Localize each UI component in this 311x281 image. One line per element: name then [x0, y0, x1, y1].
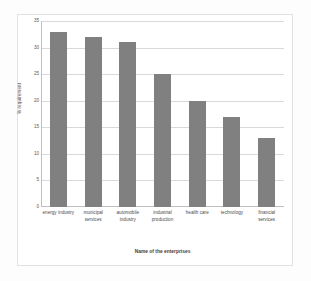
x-tick-slot: health care	[180, 210, 215, 223]
bar-slot	[215, 21, 250, 207]
x-tick-label: financial services	[250, 210, 283, 223]
x-tick-slot: industrial production	[145, 210, 180, 223]
y-tick-label: 20	[34, 98, 39, 103]
x-tick-slot: energy industry	[41, 210, 76, 223]
bar[interactable]	[119, 42, 136, 207]
x-tick-label: industrial production	[146, 210, 179, 223]
bar[interactable]	[223, 117, 240, 207]
x-tick-label: technology	[216, 210, 249, 217]
x-tick-label: energy industry	[42, 210, 75, 217]
bar-slot	[145, 21, 180, 207]
bar[interactable]	[258, 138, 275, 207]
x-tick-label: automobile industry	[111, 210, 144, 223]
y-axis-title: % requirement	[17, 64, 22, 134]
x-tick-label: municipal services	[77, 210, 110, 223]
y-tick-label: 5	[36, 178, 39, 183]
x-tick-label: health care	[181, 210, 214, 217]
x-axis-tick-labels: energy industrymunicipal servicesautomob…	[41, 210, 284, 223]
bar-slot	[110, 21, 145, 207]
bar[interactable]	[50, 32, 67, 207]
bar-slot	[249, 21, 284, 207]
bar[interactable]	[189, 101, 206, 207]
y-tick-label: 35	[34, 19, 39, 24]
x-tick-slot: financial services	[249, 210, 284, 223]
bar[interactable]	[85, 37, 102, 207]
y-tick-label: 15	[34, 125, 39, 130]
x-tick-slot: technology	[215, 210, 250, 223]
plot-area	[41, 21, 284, 207]
bar[interactable]	[154, 74, 171, 207]
y-tick-label: 0	[36, 205, 39, 210]
x-axis-title: Name of the enterprises	[41, 249, 284, 254]
x-tick-slot: automobile industry	[110, 210, 145, 223]
bar-slot	[180, 21, 215, 207]
y-tick-label: 30	[34, 45, 39, 50]
y-tick-label: 10	[34, 152, 39, 157]
bar-chart-figure: % requirement 05101520253035 energy indu…	[0, 0, 311, 281]
bar-series	[41, 21, 284, 207]
y-tick-label: 25	[34, 72, 39, 77]
x-tick-slot: municipal services	[76, 210, 111, 223]
bar-slot	[76, 21, 111, 207]
bar-slot	[41, 21, 76, 207]
y-axis-tick-labels: 05101520253035	[26, 21, 39, 207]
